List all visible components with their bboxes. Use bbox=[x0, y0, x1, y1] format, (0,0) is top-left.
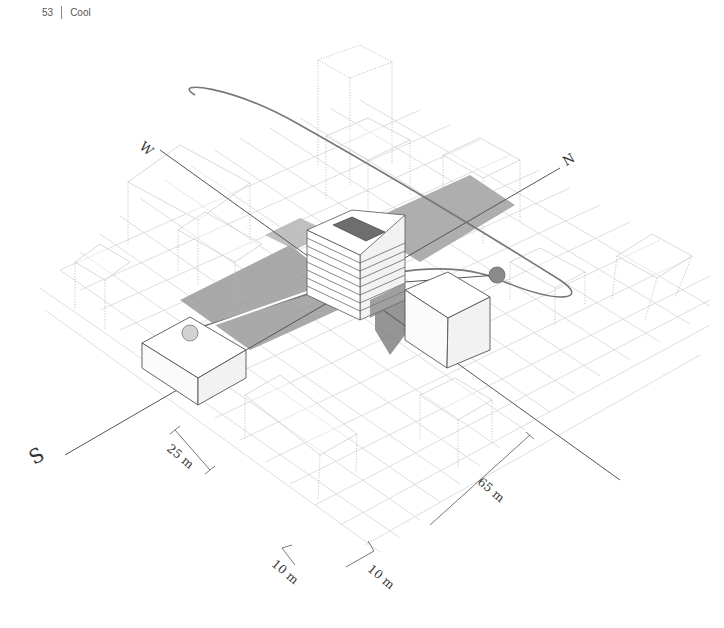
compass-north-label: N bbox=[560, 150, 577, 169]
dimension-label-10m-left: 10 m bbox=[269, 557, 302, 588]
dimension-65m: 65 m bbox=[430, 432, 534, 525]
axonometric-diagram: W N S bbox=[0, 0, 724, 628]
dimension-label-10m-right: 10 m bbox=[365, 562, 398, 593]
compass-west-label: W bbox=[137, 139, 157, 159]
compass-south-label: S bbox=[25, 442, 49, 470]
dimension-10m-left: 10 m bbox=[269, 545, 302, 587]
sun-marker-low bbox=[182, 325, 198, 341]
dimension-25m: 25 m bbox=[164, 426, 215, 474]
sun-marker-high bbox=[489, 267, 505, 283]
dimension-10m-right: 10 m bbox=[346, 541, 398, 592]
dimension-label-25m: 25 m bbox=[164, 441, 197, 472]
dimension-label-65m: 65 m bbox=[475, 475, 508, 506]
solid-block-east bbox=[405, 272, 490, 368]
